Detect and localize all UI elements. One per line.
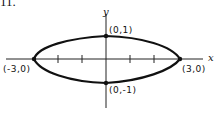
- x-axis-label: x: [208, 53, 214, 63]
- point-label-top: (0,1): [109, 26, 133, 35]
- point-top: [104, 34, 108, 38]
- y-axis-label: y: [103, 7, 109, 17]
- point-label-bottom: (0,-1): [109, 86, 137, 95]
- point-left: [32, 57, 36, 61]
- ellipse-figure: 11. x y (0,1) (0,-1) (-3,0) (3,0): [0, 0, 216, 118]
- point-bottom: [104, 81, 108, 85]
- point-right: [178, 57, 182, 61]
- ellipse-plot: [0, 0, 216, 118]
- problem-number: 11.: [0, 0, 16, 8]
- point-label-right: (3,0): [182, 65, 206, 74]
- point-label-left: (-3,0): [3, 65, 31, 74]
